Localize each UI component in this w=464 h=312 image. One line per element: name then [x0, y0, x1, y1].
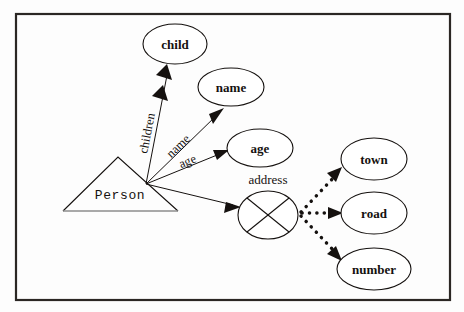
- edge-road[interactable]: [302, 207, 343, 219]
- edge-children-arrowhead-inner: [152, 85, 168, 101]
- edge-address[interactable]: [146, 184, 241, 213]
- node-name[interactable]: name: [198, 68, 264, 106]
- edge-age[interactable]: age: [146, 150, 229, 184]
- edge-children[interactable]: children: [136, 64, 172, 184]
- node-age-label: age: [251, 141, 270, 156]
- edge-number-line: [301, 216, 336, 253]
- edge-name-arrowhead: [209, 108, 224, 124]
- node-town[interactable]: town: [341, 138, 407, 180]
- edge-name[interactable]: name: [146, 108, 224, 184]
- node-town-label: town: [360, 152, 388, 167]
- edge-town-line: [301, 174, 337, 212]
- entity-person[interactable]: Person: [63, 157, 178, 211]
- edge-number-arrowhead: [327, 246, 342, 261]
- edge-age-arrowhead: [213, 150, 229, 160]
- node-address-label: address: [249, 172, 288, 187]
- entity-person-label: Person: [95, 188, 145, 203]
- diagram-svg: children name age: [0, 0, 464, 312]
- edge-age-label: age: [177, 151, 199, 171]
- edge-town[interactable]: [301, 167, 342, 212]
- edge-town-arrowhead: [327, 167, 342, 182]
- node-road[interactable]: road: [341, 192, 407, 234]
- node-number[interactable]: number: [337, 248, 411, 290]
- node-address[interactable]: address: [238, 172, 298, 239]
- edge-children-label: children: [136, 111, 158, 155]
- node-age[interactable]: age: [227, 129, 293, 167]
- edge-children-arrowhead-outer: [156, 64, 172, 80]
- diagram-canvas: children name age: [0, 0, 464, 312]
- node-child-label: child: [161, 37, 189, 52]
- edge-number[interactable]: [301, 216, 342, 261]
- node-number-label: number: [352, 262, 396, 277]
- node-name-label: name: [216, 80, 247, 95]
- node-road-label: road: [361, 206, 388, 221]
- node-child[interactable]: child: [143, 24, 207, 64]
